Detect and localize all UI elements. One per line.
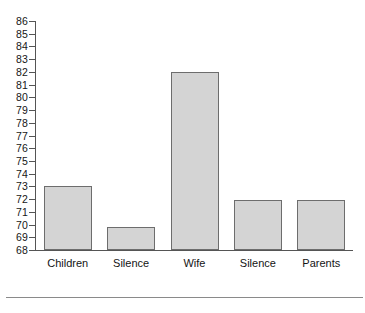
x-axis-tick-label: Silence (99, 256, 162, 270)
bar (107, 227, 155, 250)
y-axis-tick-label: 83 (6, 54, 28, 64)
bar (234, 200, 282, 250)
y-axis-tick-label: 79 (6, 105, 28, 115)
bar-group (44, 21, 92, 250)
y-axis-tick-label: 81 (6, 80, 28, 90)
plot-area: 86858483828180797877767574737271706968 C… (0, 0, 365, 285)
y-axis-tick-mark (29, 148, 35, 149)
y-axis-tick-label: 80 (6, 92, 28, 102)
y-axis-tick-label: 82 (6, 67, 28, 77)
footer-divider-rule (6, 297, 363, 298)
bars-container (36, 21, 353, 250)
y-axis-tick-label: 70 (6, 220, 28, 230)
y-axis-tick-mark (29, 212, 35, 213)
y-axis-tick-label: 76 (6, 143, 28, 153)
x-axis-category-labels: ChildrenSilenceWifeSilenceParents (36, 256, 353, 276)
y-axis-tick-label: 78 (6, 118, 28, 128)
y-axis-tick-mark (29, 199, 35, 200)
y-axis-tick-label: 85 (6, 29, 28, 39)
y-axis-tick-mark (29, 59, 35, 60)
y-axis-tick-mark (29, 85, 35, 86)
y-axis-tick-labels: 86858483828180797877767574737271706968 (4, 0, 28, 285)
bar-group (107, 21, 155, 250)
y-axis-tick-label: 74 (6, 169, 28, 179)
y-axis-tick-mark (29, 123, 35, 124)
bar (297, 200, 345, 250)
bar-group (234, 21, 282, 250)
y-axis-tick-label: 72 (6, 194, 28, 204)
y-axis-tick-label: 84 (6, 41, 28, 51)
y-axis-tick-mark (29, 136, 35, 137)
y-axis-tick-label: 69 (6, 232, 28, 242)
bar-chart-figure: 86858483828180797877767574737271706968 C… (0, 0, 365, 313)
y-axis-tick-mark (29, 34, 35, 35)
y-axis-tick-label: 86 (6, 16, 28, 26)
y-axis-tick-mark (29, 186, 35, 187)
y-axis-tick-mark (29, 46, 35, 47)
x-axis-tick-label: Parents (290, 256, 353, 270)
y-axis-tick-mark (29, 225, 35, 226)
y-axis-tick-mark (29, 97, 35, 98)
y-axis-tick-mark (29, 250, 35, 251)
bar-group (297, 21, 345, 250)
x-axis-tick-label: Silence (226, 256, 289, 270)
bar (171, 72, 219, 250)
y-axis-tick-mark (29, 161, 35, 162)
x-axis-tick-label: Children (36, 256, 99, 270)
y-axis-tick-mark (29, 110, 35, 111)
y-axis-tick-label: 75 (6, 156, 28, 166)
y-axis-tick-label: 73 (6, 181, 28, 191)
bar-group (171, 21, 219, 250)
y-axis-tick-label: 77 (6, 131, 28, 141)
y-axis-tick-label: 68 (6, 245, 28, 255)
y-axis-tick-label: 71 (6, 207, 28, 217)
x-axis-tick-label: Wife (163, 256, 226, 270)
y-axis-tick-mark (29, 237, 35, 238)
x-axis-baseline (35, 250, 353, 251)
y-axis-tick-mark (29, 21, 35, 22)
bar (44, 186, 92, 250)
y-axis-tick-mark (29, 174, 35, 175)
y-axis-tick-mark (29, 72, 35, 73)
